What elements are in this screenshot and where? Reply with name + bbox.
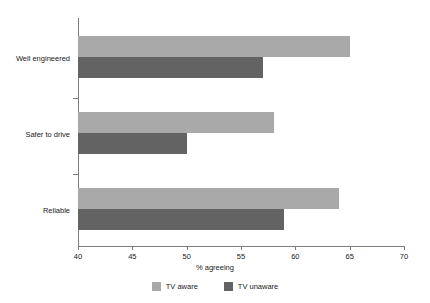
x-axis-tick-label: 40	[58, 252, 98, 261]
x-axis-tick	[132, 246, 133, 250]
legend-label-tv-aware: TV aware	[166, 282, 198, 291]
x-axis-title: % agreeing	[0, 263, 430, 272]
x-axis-tick	[187, 246, 188, 250]
bar-reliable-tv-unaware	[78, 209, 284, 230]
bar-safer-to-drive-tv-unaware	[78, 133, 187, 154]
y-axis-tick	[73, 174, 79, 175]
x-axis-tick-label: 70	[384, 252, 424, 261]
x-axis-tick-label: 55	[221, 252, 261, 261]
x-axis-tick	[78, 246, 79, 250]
legend-label-tv-unaware: TV unaware	[238, 282, 278, 291]
x-axis-tick	[350, 246, 351, 250]
legend-swatch-icon-tv-unaware	[224, 282, 233, 291]
x-axis-tick-label: 45	[112, 252, 152, 261]
legend-item-tv-aware: TV aware	[152, 282, 198, 291]
y-axis-category-label-2: Reliable	[43, 206, 70, 215]
y-axis-tick	[73, 98, 79, 99]
x-axis-tick-label: 65	[330, 252, 370, 261]
bar-well-engineered-tv-aware	[78, 36, 350, 57]
y-axis-category-label-0: Well engineered	[16, 54, 70, 63]
x-axis-tick	[241, 246, 242, 250]
bar-safer-to-drive-tv-aware	[78, 112, 274, 133]
x-axis-tick-label: 60	[275, 252, 315, 261]
bar-chart: Well engineered Safer to drive Reliable …	[0, 0, 430, 303]
y-axis-category-label-1: Safer to drive	[25, 130, 70, 139]
x-axis-tick	[404, 246, 405, 250]
x-axis-tick-label: 50	[167, 252, 207, 261]
x-axis-tick	[295, 246, 296, 250]
legend-item-tv-unaware: TV unaware	[224, 282, 278, 291]
legend-swatch-icon-tv-aware	[152, 282, 161, 291]
chart-legend: TV aware TV unaware	[0, 282, 430, 291]
bar-reliable-tv-aware	[78, 188, 339, 209]
bar-well-engineered-tv-unaware	[78, 57, 263, 78]
